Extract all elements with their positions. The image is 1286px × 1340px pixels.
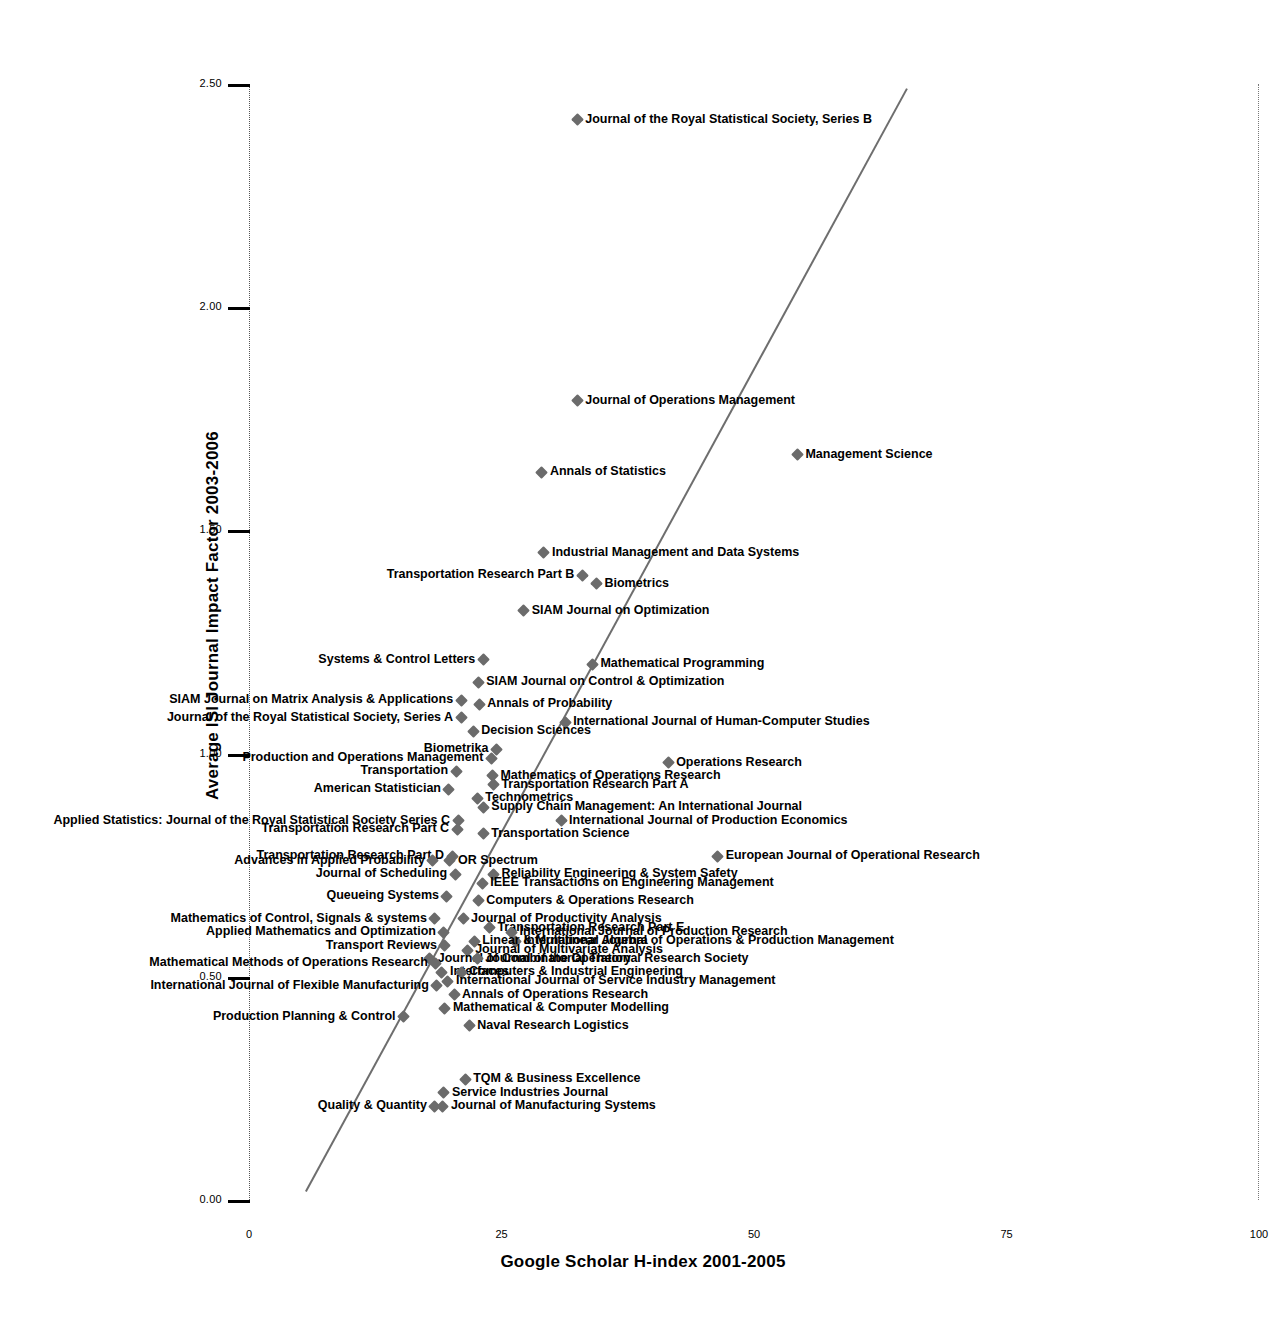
data-point-label: TQM & Business Excellence bbox=[473, 1072, 640, 1085]
data-point-marker[interactable] bbox=[467, 725, 480, 738]
data-point-marker[interactable] bbox=[555, 814, 568, 827]
data-point-label: Service Industries Journal bbox=[452, 1086, 608, 1099]
data-point-marker[interactable] bbox=[472, 895, 485, 908]
x-tick-label: 75 bbox=[987, 1228, 1027, 1240]
x-axis-title: Google Scholar H-index 2001-2005 bbox=[0, 1252, 1286, 1272]
data-point-marker[interactable] bbox=[538, 546, 551, 559]
data-point-marker[interactable] bbox=[443, 783, 456, 796]
data-point-marker[interactable] bbox=[517, 604, 530, 617]
data-point-marker[interactable] bbox=[576, 569, 589, 582]
data-point-label: Journal of Manufacturing Systems bbox=[451, 1099, 656, 1112]
data-point-label: Production Planning & Control bbox=[213, 1010, 396, 1023]
x-tick-label: 25 bbox=[482, 1228, 522, 1240]
data-point-label: Journal of Operations Management bbox=[585, 394, 795, 407]
data-point-marker[interactable] bbox=[477, 828, 490, 841]
data-point-label: Supply Chain Management: An Internationa… bbox=[491, 800, 802, 813]
y-tick-mark bbox=[228, 307, 250, 310]
data-point-label: Industrial Management and Data Systems bbox=[552, 546, 799, 559]
data-point-marker[interactable] bbox=[571, 113, 584, 126]
data-point-marker[interactable] bbox=[472, 676, 485, 689]
y-tick-mark bbox=[228, 530, 250, 533]
data-point-marker[interactable] bbox=[590, 578, 603, 591]
y-axis-title: Average ISI Journal Impact Factor 2003-2… bbox=[203, 431, 223, 800]
data-point-marker[interactable] bbox=[791, 448, 804, 461]
chart-page: 0.000.501.001.502.002.50 0255075100 Jour… bbox=[0, 0, 1286, 1340]
data-point-label: Annals of Statistics bbox=[550, 465, 666, 478]
y-tick-label: 2.00 bbox=[182, 300, 222, 312]
data-point-marker[interactable] bbox=[662, 756, 675, 769]
data-point-label: Mathematical Programming bbox=[600, 657, 764, 670]
data-point-marker[interactable] bbox=[457, 912, 470, 925]
data-point-marker[interactable] bbox=[437, 1100, 450, 1113]
data-point-label: Production and Operations Management bbox=[242, 751, 483, 764]
data-point-marker[interactable] bbox=[463, 1020, 476, 1033]
data-point-label: Annals of Probability bbox=[487, 697, 612, 710]
data-point-marker[interactable] bbox=[586, 658, 599, 671]
y-tick-label: 2.50 bbox=[182, 77, 222, 89]
data-point-label: Transportation Research Part B bbox=[387, 568, 575, 581]
data-point-label: Transportation Research Part A bbox=[501, 778, 688, 791]
data-point-marker[interactable] bbox=[449, 868, 462, 881]
data-point-label: Systems & Control Letters bbox=[318, 653, 475, 666]
data-point-label: Quality & Quantity bbox=[318, 1099, 427, 1112]
data-point-marker[interactable] bbox=[711, 850, 724, 863]
data-point-label: Mathematics of Control, Signals & system… bbox=[171, 912, 427, 925]
data-point-label: SIAM Journal on Optimization bbox=[532, 604, 710, 617]
data-point-label: International Journal of Flexible Manufa… bbox=[150, 979, 429, 992]
data-point-label: International Journal of Service Industr… bbox=[456, 974, 776, 987]
data-point-marker[interactable] bbox=[455, 694, 468, 707]
data-point-label: Decision Sciences bbox=[481, 724, 591, 737]
data-point-label: SIAM Journal on Control & Optimization bbox=[486, 675, 724, 688]
data-point-marker[interactable] bbox=[477, 653, 490, 666]
scatter-plot-canvas: 0.000.501.001.502.002.50 0255075100 Jour… bbox=[0, 0, 1286, 1340]
data-point-label: Transport Reviews bbox=[326, 939, 437, 952]
data-point-label: Journal of the Operational Research Soci… bbox=[485, 952, 748, 965]
y-tick-mark bbox=[228, 1200, 250, 1203]
data-point-marker[interactable] bbox=[571, 395, 584, 408]
data-point-label: OR Spectrum bbox=[458, 854, 538, 867]
y-tick-mark bbox=[228, 84, 250, 87]
x-tick-label: 0 bbox=[229, 1228, 269, 1240]
data-point-label: Naval Research Logistics bbox=[477, 1019, 628, 1032]
data-point-label: Mathematical Methods of Operations Resea… bbox=[149, 956, 428, 969]
x-tick-label: 100 bbox=[1239, 1228, 1279, 1240]
data-point-label: Computers & Operations Research bbox=[486, 894, 694, 907]
data-point-label: IEEE Transactions on Engineering Managem… bbox=[490, 876, 773, 889]
data-point-marker[interactable] bbox=[438, 1086, 451, 1099]
y-tick-label: 0.00 bbox=[182, 1193, 222, 1205]
y-axis-line bbox=[249, 84, 250, 1200]
x-tick-label: 50 bbox=[734, 1228, 774, 1240]
data-point-label: European Journal of Operational Research bbox=[726, 849, 980, 862]
data-point-marker[interactable] bbox=[476, 877, 489, 890]
data-point-label: Mathematical & Computer Modelling bbox=[453, 1001, 669, 1014]
data-point-label: Journal of Scheduling bbox=[316, 867, 447, 880]
data-point-label: Transportation Research Part C bbox=[262, 822, 450, 835]
data-point-label: Transportation Science bbox=[491, 827, 629, 840]
data-point-marker[interactable] bbox=[451, 823, 464, 836]
data-point-label: American Statistician bbox=[314, 782, 441, 795]
data-point-label: Transportation bbox=[361, 764, 449, 777]
data-point-marker[interactable] bbox=[455, 712, 468, 725]
data-point-marker[interactable] bbox=[450, 765, 463, 778]
right-border-line bbox=[1258, 84, 1259, 1200]
data-point-label: International Journal of Production Econ… bbox=[569, 814, 848, 827]
data-point-marker[interactable] bbox=[441, 890, 454, 903]
data-point-label: Queueing Systems bbox=[326, 889, 439, 902]
data-point-label: International Journal of Human-Computer … bbox=[573, 715, 870, 728]
data-point-label: Applied Mathematics and Optimization bbox=[206, 925, 436, 938]
data-point-label: Biometrics bbox=[604, 577, 669, 590]
data-point-marker[interactable] bbox=[439, 1002, 452, 1015]
data-point-label: Journal of the Royal Statistical Society… bbox=[585, 113, 872, 126]
data-point-label: Management Science bbox=[805, 448, 932, 461]
data-point-marker[interactable] bbox=[536, 466, 549, 479]
data-point-label: Advances in Applied Probability bbox=[234, 854, 425, 867]
data-point-marker[interactable] bbox=[473, 698, 486, 711]
data-point-label: Annals of Operations Research bbox=[462, 988, 648, 1001]
data-point-marker[interactable] bbox=[459, 1073, 472, 1086]
data-point-label: Operations Research bbox=[676, 756, 802, 769]
